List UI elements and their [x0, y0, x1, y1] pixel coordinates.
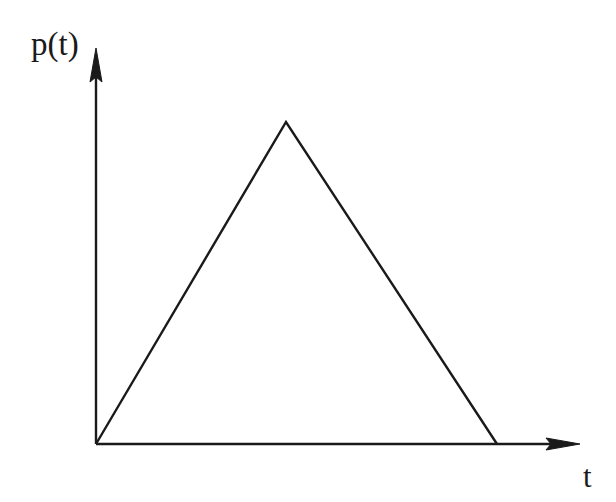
- y-axis-label: p(t): [31, 28, 79, 61]
- triangular-pulse-plot: [0, 0, 616, 502]
- x-axis-label: t: [583, 461, 592, 492]
- figure-canvas: p(t) t: [0, 0, 616, 502]
